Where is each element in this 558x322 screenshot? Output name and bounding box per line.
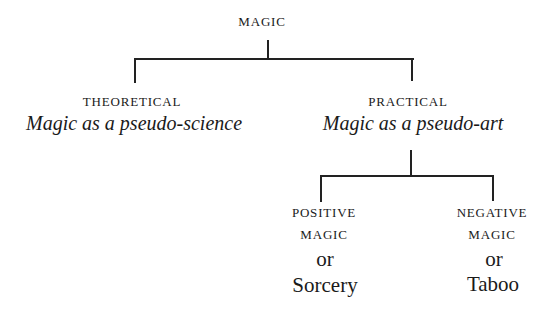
positive-connector-or: or — [316, 249, 334, 270]
root-horizontal-line — [134, 58, 414, 60]
practical-subtitle: Magic as a pseudo-art — [323, 113, 504, 133]
theoretical-label: THEORETICAL — [83, 95, 181, 108]
right-drop-line — [411, 58, 413, 81]
negative-drop-line — [492, 175, 494, 201]
practical-horizontal-line — [320, 175, 494, 177]
root-stem-line — [267, 40, 269, 59]
negative-connector-or: or — [485, 249, 503, 270]
left-drop-line — [134, 58, 136, 83]
negative-alt-taboo: Taboo — [467, 274, 519, 295]
positive-drop-line — [320, 175, 322, 202]
positive-alt-sorcery: Sorcery — [292, 275, 357, 296]
positive-label-line1: POSITIVE — [292, 206, 356, 219]
practical-label: PRACTICAL — [368, 95, 447, 108]
negative-label-line2: MAGIC — [468, 228, 515, 241]
negative-label-line1: NEGATIVE — [457, 206, 528, 219]
theoretical-subtitle: Magic as a pseudo-science — [26, 113, 242, 133]
positive-label-line2: MAGIC — [300, 228, 347, 241]
practical-stem-line — [410, 150, 412, 176]
root-node-magic: MAGIC — [238, 15, 285, 28]
